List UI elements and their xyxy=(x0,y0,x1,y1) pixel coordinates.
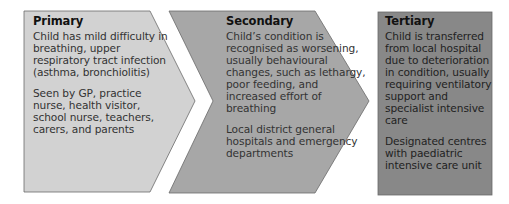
secondary-care-providers: Local district general hospitals and eme… xyxy=(226,123,366,159)
primary-title: Primary xyxy=(33,15,168,27)
tertiary-description: Child is transferred from local hospital… xyxy=(385,30,493,126)
primary-care-providers: Seen by GP, practice nurse, health visit… xyxy=(33,87,168,135)
primary-panel: Primary Child has mild difficulty in bre… xyxy=(33,15,168,144)
primary-description: Child has mild difficulty in breathing, … xyxy=(33,30,168,78)
secondary-title: Secondary xyxy=(226,15,366,27)
secondary-description: Child’s condition is recognised as worse… xyxy=(226,30,366,114)
tertiary-care-providers: Designated centres with paediatric inten… xyxy=(385,135,493,171)
tertiary-title: Tertiary xyxy=(385,15,493,27)
secondary-panel: Secondary Child’s condition is recognise… xyxy=(226,15,366,168)
tertiary-panel: Tertiary Child is transferred from local… xyxy=(385,15,493,180)
